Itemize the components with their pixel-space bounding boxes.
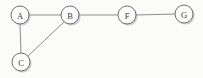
node-label-b: B (67, 11, 73, 21)
graph-edge-f-g (136, 14, 175, 15)
edges-layer (20, 14, 175, 56)
graph-edge-b-c (28, 22, 64, 56)
graph-edge-a-c (20, 24, 21, 53)
node-label-f: F (125, 11, 130, 21)
graph-node-a[interactable]: A (11, 6, 31, 26)
graph-node-g[interactable]: G (175, 5, 195, 25)
graph-svg: ABFGC (0, 0, 203, 78)
node-label-a: A (17, 11, 24, 21)
node-label-g: G (181, 10, 187, 20)
node-label-c: C (18, 58, 24, 68)
graph-node-f[interactable]: F (118, 6, 138, 26)
graph-diagram-canvas: ABFGC (0, 0, 203, 78)
